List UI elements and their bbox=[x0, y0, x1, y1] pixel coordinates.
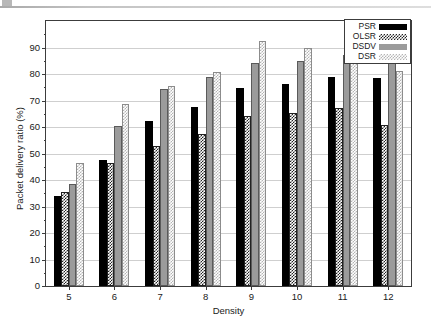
bar-dsdv-density-12 bbox=[388, 57, 396, 286]
bar-dsr-density-11 bbox=[350, 63, 358, 286]
x-tick-mark bbox=[343, 286, 344, 290]
y-minor-tick-mark bbox=[44, 140, 46, 141]
y-tick-mark bbox=[42, 286, 46, 287]
bar-dsr-density-7 bbox=[168, 86, 176, 286]
bar-dsr-density-6 bbox=[122, 104, 130, 286]
y-tick-mark bbox=[42, 74, 46, 75]
x-tick-mark bbox=[114, 286, 115, 290]
y-minor-tick-mark bbox=[44, 87, 46, 88]
bar-olsr-density-7 bbox=[153, 146, 161, 286]
y-minor-tick-mark bbox=[44, 193, 46, 194]
bar-olsr-density-8 bbox=[198, 134, 206, 286]
y-tick-mark bbox=[42, 180, 46, 181]
y-tick-label: 30 bbox=[29, 202, 40, 212]
x-tick-mark bbox=[388, 286, 389, 290]
y-axis-label: Packet delivery ratio (%) bbox=[14, 59, 25, 259]
x-tick-label: 9 bbox=[249, 292, 254, 302]
legend-swatch-olsr bbox=[379, 34, 407, 40]
y-tick-label: 80 bbox=[29, 69, 40, 79]
legend-label-psr: PSR bbox=[359, 22, 376, 31]
y-tick-mark bbox=[42, 101, 46, 102]
y-tick-mark bbox=[42, 154, 46, 155]
bar-chart-figure: 010203040506070809056789101112 PSROLSRDS… bbox=[0, 0, 431, 327]
bar-psr-density-9 bbox=[236, 88, 244, 286]
y-tick-mark bbox=[42, 48, 46, 49]
x-tick-label: 6 bbox=[112, 292, 117, 302]
bar-dsdv-density-9 bbox=[251, 63, 259, 286]
bar-olsr-density-9 bbox=[244, 116, 252, 286]
bar-dsr-density-12 bbox=[396, 71, 404, 286]
y-tick-mark bbox=[42, 233, 46, 234]
x-tick-label: 5 bbox=[66, 292, 71, 302]
legend-label-olsr: OLSR bbox=[353, 32, 376, 41]
y-minor-tick-mark bbox=[44, 61, 46, 62]
legend-item-psr: PSR bbox=[347, 22, 407, 31]
legend-swatch-dsdv bbox=[379, 44, 407, 50]
y-tick-label: 40 bbox=[29, 175, 40, 185]
legend-swatch-dsr bbox=[379, 54, 407, 60]
x-tick-mark bbox=[206, 286, 207, 290]
legend-item-olsr: OLSR bbox=[347, 32, 407, 41]
bar-psr-density-5 bbox=[54, 196, 62, 286]
bar-dsdv-density-11 bbox=[343, 55, 351, 286]
x-tick-label: 11 bbox=[338, 292, 348, 302]
bar-dsdv-density-5 bbox=[69, 184, 77, 286]
bar-dsr-density-8 bbox=[213, 72, 221, 286]
legend-label-dsr: DSR bbox=[358, 52, 376, 61]
bar-psr-density-8 bbox=[191, 107, 199, 286]
x-axis-label: Density bbox=[45, 305, 412, 316]
x-tick-label: 12 bbox=[383, 292, 394, 302]
legend-swatch-psr bbox=[379, 24, 407, 30]
y-tick-label: 60 bbox=[29, 122, 40, 132]
x-tick-label: 7 bbox=[157, 292, 162, 302]
bar-olsr-density-6 bbox=[107, 163, 115, 286]
y-minor-tick-mark bbox=[44, 220, 46, 221]
legend-item-dsr: DSR bbox=[347, 52, 407, 61]
bar-psr-density-10 bbox=[282, 84, 290, 286]
bar-dsr-density-9 bbox=[259, 41, 267, 286]
bar-dsdv-density-6 bbox=[114, 126, 122, 286]
y-tick-label: 10 bbox=[29, 255, 40, 265]
bar-dsdv-density-7 bbox=[160, 89, 168, 286]
y-tick-mark bbox=[42, 207, 46, 208]
y-minor-tick-mark bbox=[44, 114, 46, 115]
bar-olsr-density-11 bbox=[335, 108, 343, 286]
legend-label-dsdv: DSDV bbox=[352, 42, 376, 51]
bar-dsdv-density-10 bbox=[297, 61, 305, 286]
bar-psr-density-7 bbox=[145, 121, 153, 286]
y-minor-tick-mark bbox=[44, 167, 46, 168]
y-tick-label: 90 bbox=[29, 43, 40, 53]
bar-dsr-density-10 bbox=[304, 48, 312, 287]
y-minor-tick-mark bbox=[44, 273, 46, 274]
bar-olsr-density-12 bbox=[381, 125, 389, 286]
x-tick-mark bbox=[251, 286, 252, 290]
y-tick-label: 70 bbox=[29, 96, 40, 106]
y-minor-tick-mark bbox=[44, 34, 46, 35]
legend-item-dsdv: DSDV bbox=[347, 42, 407, 51]
bar-psr-density-6 bbox=[99, 160, 107, 286]
chart-legend: PSROLSRDSDVDSR bbox=[344, 19, 411, 64]
bar-dsr-density-5 bbox=[76, 163, 84, 286]
y-tick-label: 0 bbox=[35, 281, 40, 291]
bar-psr-density-12 bbox=[373, 78, 381, 286]
x-tick-mark bbox=[160, 286, 161, 290]
y-tick-mark bbox=[42, 127, 46, 128]
y-tick-mark bbox=[42, 260, 46, 261]
x-tick-mark bbox=[69, 286, 70, 290]
y-tick-label: 20 bbox=[29, 228, 40, 238]
bar-psr-density-11 bbox=[328, 77, 336, 286]
x-tick-label: 10 bbox=[292, 292, 303, 302]
bar-olsr-density-5 bbox=[61, 192, 69, 286]
bar-olsr-density-10 bbox=[289, 113, 297, 286]
x-tick-label: 8 bbox=[203, 292, 208, 302]
y-minor-tick-mark bbox=[44, 246, 46, 247]
y-tick-label: 50 bbox=[29, 149, 40, 159]
bar-dsdv-density-8 bbox=[206, 77, 214, 286]
x-tick-mark bbox=[297, 286, 298, 290]
